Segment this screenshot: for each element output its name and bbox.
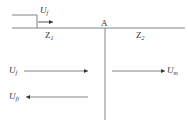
diagram-canvas: [0, 0, 188, 132]
impedance-z2-label: Z2: [136, 31, 145, 41]
wavefront-label: Uf: [40, 6, 48, 16]
reflected-wave-label: Ufl: [9, 92, 19, 102]
impedance-z1-label: Z1: [45, 31, 54, 41]
junction-label: A: [101, 19, 108, 28]
wavefront-step: [12, 15, 37, 28]
incident-wave-label: Uf: [9, 66, 17, 76]
transmitted-wave-label: Um: [167, 66, 178, 76]
